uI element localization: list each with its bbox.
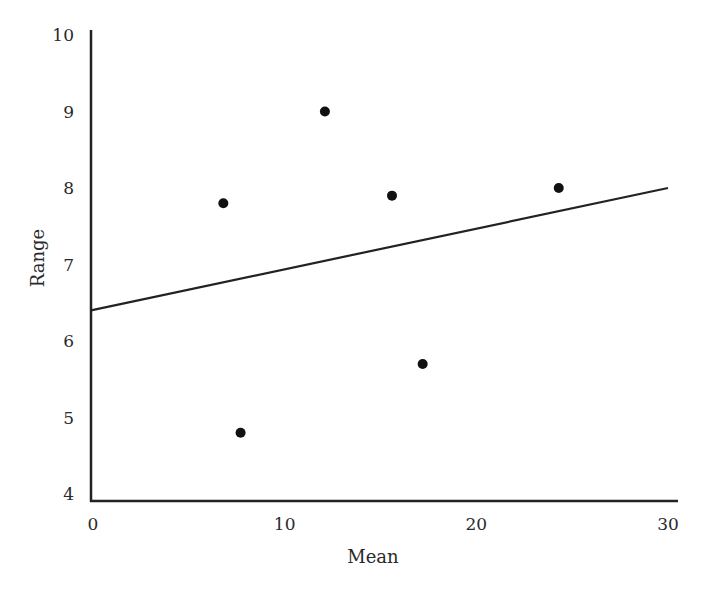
x-tick-label: 10: [274, 514, 296, 534]
data-point: [218, 198, 228, 208]
x-axis-title: Mean: [347, 546, 399, 567]
data-point: [236, 428, 246, 438]
y-tick-label: 4: [63, 484, 74, 504]
y-tick-label: 6: [63, 331, 74, 351]
fitted-line: [91, 188, 668, 310]
y-tick-labels: 45678910: [52, 25, 74, 504]
x-tick-label: 20: [466, 514, 488, 534]
data-point: [387, 191, 397, 201]
x-tick-label: 0: [88, 514, 99, 534]
data-point: [554, 183, 564, 193]
y-tick-label: 9: [63, 102, 74, 122]
x-tick-labels: 0102030: [88, 514, 679, 534]
data-point: [418, 359, 428, 369]
y-tick-label: 10: [52, 25, 74, 45]
scatter-chart: 45678910 0102030 Mean Range: [0, 0, 712, 591]
data-point: [320, 107, 330, 117]
y-tick-label: 8: [63, 178, 74, 198]
regression-line: [91, 188, 668, 310]
y-tick-label: 5: [63, 408, 74, 428]
x-tick-label: 30: [657, 514, 679, 534]
y-axis-title: Range: [27, 229, 48, 287]
axes: [90, 30, 678, 502]
y-tick-label: 7: [63, 255, 74, 275]
